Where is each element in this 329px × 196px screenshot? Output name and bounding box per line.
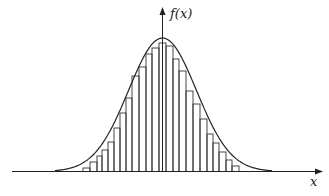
histogram-bar	[126, 98, 132, 172]
histogram-bar	[90, 162, 97, 172]
histogram-bar	[213, 143, 219, 172]
histogram-bar	[146, 54, 152, 172]
histogram-bar	[166, 46, 173, 172]
normal-histogram-diagram: f(x) x	[0, 0, 329, 196]
histogram-bar	[132, 76, 139, 172]
histogram-bar	[173, 59, 179, 172]
histogram-bar	[207, 134, 213, 172]
histogram-bar	[193, 104, 200, 172]
histogram-bar	[83, 168, 90, 172]
x-axis-label: x	[310, 174, 318, 189]
histogram-bar	[232, 166, 239, 172]
histogram-bar	[219, 152, 226, 172]
histogram-bar	[97, 156, 102, 172]
histogram-bar	[102, 150, 108, 172]
histogram-bar	[139, 67, 146, 172]
histogram-bar	[152, 48, 159, 172]
histogram-bar	[108, 142, 114, 172]
histogram-bar	[114, 128, 120, 172]
histogram-bars	[83, 43, 239, 172]
density-curve	[55, 38, 272, 171]
histogram-bar	[179, 71, 186, 172]
y-axis-arrow-icon	[160, 7, 166, 15]
histogram-bar	[200, 119, 207, 172]
histogram-bar	[120, 113, 126, 172]
histogram-bar	[186, 91, 193, 172]
histogram-bar	[226, 160, 232, 172]
y-axis-label: f(x)	[169, 6, 192, 21]
